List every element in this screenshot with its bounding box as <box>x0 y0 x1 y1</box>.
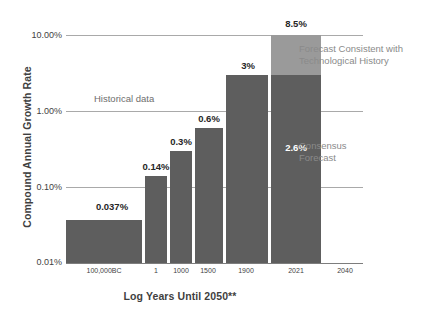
y-tick-label: 1.00% <box>2 106 62 116</box>
x-tick-label: 1 <box>145 267 167 274</box>
bar-value-label: 0.3% <box>150 136 212 147</box>
x-tick-label: 2021 <box>271 267 321 274</box>
annotation-historical-data: Historical data <box>94 93 154 105</box>
y-axis-title: Compound Annual Growth Rate <box>21 37 33 257</box>
plot-area: 10.00% 1.00% 0.10% 0.01% 0.037% 0.14% 0.… <box>66 35 363 263</box>
bar-value-label: 0.14% <box>124 161 188 172</box>
x-tick-label: 1900 <box>224 267 268 274</box>
x-tick-label: 2040 <box>322 267 368 274</box>
annotation-forecast-line2: Technological History <box>299 55 389 67</box>
bar-value-label-forecast: 8.5% <box>271 18 321 29</box>
annotation-consensus-line2: Forecast <box>299 152 336 164</box>
bar-100000bc[interactable] <box>66 220 142 263</box>
bar-1500[interactable] <box>195 128 223 263</box>
y-tick-label: 0.10% <box>2 182 62 192</box>
x-tick-label: 1500 <box>193 267 223 274</box>
x-tick-label: 1000 <box>166 267 196 274</box>
axis-baseline <box>66 263 363 264</box>
bar-1[interactable] <box>145 176 167 263</box>
chart-canvas: Compound Annual Growth Rate Log Years Un… <box>0 0 430 317</box>
bar-value-label: 0.037% <box>74 201 150 212</box>
x-axis-title: Log Years Until 2050** <box>60 290 300 302</box>
annotation-consensus-line1: Consensus <box>299 140 347 152</box>
bar-value-label: 0.6% <box>179 113 239 124</box>
bar-value-label: 3% <box>227 60 269 71</box>
y-tick-label: 0.01% <box>2 257 62 267</box>
bar-1900[interactable] <box>226 75 268 263</box>
y-tick-label: 10.00% <box>2 30 62 40</box>
annotation-forecast-line1: Forecast Consistent with <box>299 43 403 55</box>
x-tick-label: 100,000BC <box>61 267 147 274</box>
